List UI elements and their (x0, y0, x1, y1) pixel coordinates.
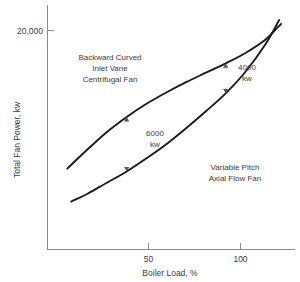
y-axis-title: Total Fan Power, kw (12, 101, 22, 178)
series-line-centrifugal-fan (67, 24, 281, 169)
series-label-axial-flow-fan: Variable Pitch Axial Flow Fan (209, 163, 261, 183)
axis-lines (48, 5, 296, 250)
annotation-arrow-4000kw (223, 63, 228, 93)
series-label-centrifugal-fan: Backward Curved Inlet Vane Centrifugal F… (78, 53, 141, 84)
x-tick-label-50: 50 (144, 254, 154, 264)
annotation-arrow-6000kw (124, 117, 129, 172)
annotation-label-4000kw-unit: kw (242, 74, 252, 83)
series-label-centrifugal-line-2: Inlet Vane (92, 64, 128, 73)
series-label-centrifugal-line-1: Backward Curved (78, 53, 141, 62)
annotation-label-6000kw-unit: kw (150, 140, 160, 149)
series-label-centrifugal-line-3: Centrifugal Fan (83, 75, 138, 84)
x-axis-title: Boiler Load, % (142, 268, 198, 278)
annotation-gap-6000kw: 6000 kw (124, 117, 164, 172)
x-tick-label-100: 100 (233, 254, 247, 264)
series-label-axial-line-2: Axial Flow Fan (209, 174, 261, 183)
fan-power-chart: 20,000 50 100 Boiler Load, % Total Fan P… (0, 0, 300, 282)
series-label-axial-line-1: Variable Pitch (211, 163, 260, 172)
y-tick-label-20000: 20,000 (17, 26, 43, 36)
chart-axes (48, 5, 296, 250)
annotation-label-6000kw-value: 6000 (146, 129, 164, 138)
annotation-label-4000kw-value: 4000 (238, 63, 256, 72)
chart-canvas: 20,000 50 100 Boiler Load, % Total Fan P… (0, 0, 300, 282)
